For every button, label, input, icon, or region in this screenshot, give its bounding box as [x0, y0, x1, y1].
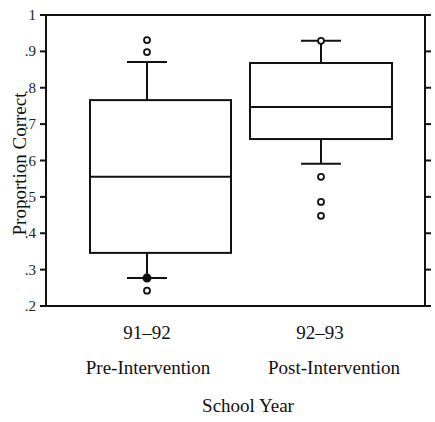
outlier-point — [144, 37, 150, 43]
box-plot-chart: .2.3.4.5.6.7.8.91 91–92 92–93 Pre-Interv… — [0, 0, 435, 422]
outlier-point — [144, 288, 150, 294]
y-axis-title: Proportion Correct — [9, 92, 30, 236]
filled-point — [144, 274, 151, 281]
boxes — [90, 37, 392, 294]
outlier-point — [318, 199, 324, 205]
outlier-point — [318, 38, 324, 44]
box-1 — [250, 38, 392, 219]
y-tick-label: .3 — [25, 262, 36, 278]
y-tick-label: 1 — [29, 7, 37, 23]
category-label-92-93: 92–93 — [296, 322, 344, 343]
box-0 — [90, 37, 231, 294]
y-tick-label: .9 — [25, 43, 36, 59]
x-axis-title: School Year — [202, 395, 295, 416]
y-tick-label: .2 — [25, 298, 36, 314]
category-label-91-92: 91–92 — [123, 322, 171, 343]
outlier-point — [144, 49, 150, 55]
outlier-point — [318, 174, 324, 180]
outlier-point — [318, 213, 324, 219]
category-sublabel-post: Post-Intervention — [268, 357, 400, 378]
iqr-box — [250, 63, 392, 139]
category-sublabel-pre: Pre-Intervention — [86, 357, 211, 378]
